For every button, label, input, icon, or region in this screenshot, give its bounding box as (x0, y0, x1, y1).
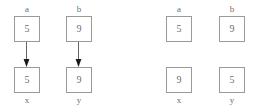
value-text: 9 (220, 17, 244, 41)
variable-label-b-top: b (66, 4, 92, 14)
value-box-x-bottom: 5 (14, 67, 40, 93)
variable-label-x-bottom: x (14, 95, 40, 105)
value-text: 5 (15, 68, 39, 92)
value-box-y-bottom: 5 (219, 67, 245, 93)
value-box-y-bottom: 9 (66, 67, 92, 93)
value-box-a-top: 5 (166, 16, 192, 42)
variable-label-y-bottom: y (66, 95, 92, 105)
diagram-group-after: a 5 9 x b 9 5 y (131, 0, 263, 112)
diagram-group-before: a 5 5 x b 9 9 y (0, 0, 131, 112)
variable-label-a-top: a (14, 4, 40, 14)
value-text: 5 (167, 17, 191, 41)
value-box-b-top: 9 (219, 16, 245, 42)
variable-reference-diagram: a 5 5 x b 9 9 y (0, 0, 263, 112)
value-text: 5 (15, 17, 39, 41)
down-arrow-icon-a (22, 42, 31, 67)
value-text: 5 (220, 68, 244, 92)
value-text: 9 (67, 68, 91, 92)
variable-label-a-top: a (166, 4, 192, 14)
value-text: 9 (67, 17, 91, 41)
variable-label-x-bottom: x (166, 95, 192, 105)
down-arrow-icon-b (74, 42, 83, 67)
value-box-a-top: 5 (14, 16, 40, 42)
variable-label-y-bottom: y (219, 95, 245, 105)
value-box-b-top: 9 (66, 16, 92, 42)
variable-label-b-top: b (219, 4, 245, 14)
value-box-x-bottom: 9 (166, 67, 192, 93)
value-text: 9 (167, 68, 191, 92)
